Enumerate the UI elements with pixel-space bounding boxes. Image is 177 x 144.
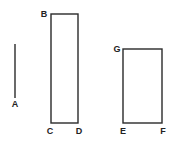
geometry-figure: A B C D G E F [0,0,177,144]
label-b: B [41,9,48,19]
short-rectangle-gef [123,49,162,123]
label-d: D [76,126,83,136]
diagram-canvas: A B C D G E F [0,0,177,144]
label-a: A [12,99,19,109]
label-e: E [120,126,126,136]
tall-rectangle-bcd [51,14,78,123]
label-f: F [160,126,166,136]
label-c: C [47,126,54,136]
label-g: G [113,44,120,54]
